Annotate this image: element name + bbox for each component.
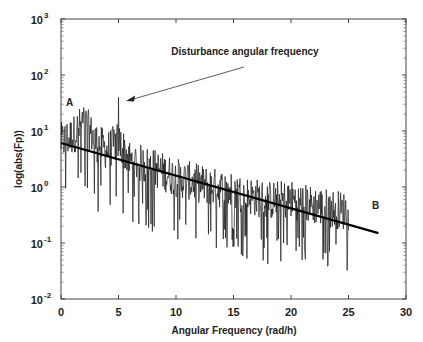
x-tick-label: 10 [170, 306, 182, 318]
x-tick-label: 0 [58, 306, 64, 318]
annotation-arrow-line [130, 67, 244, 100]
x-tick-label: 30 [400, 306, 412, 318]
y-tick-exponent: 1 [44, 123, 49, 132]
y-tick-exponent: 3 [44, 11, 49, 20]
y-tick-exponent: 0 [44, 179, 49, 188]
y-minor-ticks [61, 22, 406, 283]
disturbance-annotation: Disturbance angular frequency [171, 46, 319, 57]
y-tick-label: 10 [31, 238, 43, 250]
y-tick-label: 10 [31, 126, 43, 138]
y-tick-exponent: -1 [44, 235, 52, 244]
log-spectrum-chart: 051015202530 10-210-1100101102103 Distur… [0, 0, 423, 342]
y-tick-label: 10 [31, 294, 43, 306]
y-tick-label: 10 [31, 70, 43, 82]
y-tick-exponent: 2 [44, 67, 49, 76]
x-tick-label: 5 [115, 306, 121, 318]
y-tick-exponent: -2 [44, 291, 52, 300]
marker-b: B [372, 200, 379, 211]
y-tick-label: 10 [31, 14, 43, 26]
x-tick-label: 20 [285, 306, 297, 318]
y-axis-title: log(abs(Fp)) [13, 130, 24, 188]
marker-a: A [66, 97, 73, 108]
y-tick-label: 10 [31, 182, 43, 194]
fit-trend-line [61, 143, 378, 233]
annotation-arrowhead-icon [126, 96, 135, 102]
x-axis-title: Angular Frequency (rad/h) [171, 325, 296, 336]
plot-frame [61, 19, 406, 299]
x-axis-ticks: 051015202530 [58, 19, 412, 318]
x-tick-label: 15 [227, 306, 239, 318]
x-tick-label: 25 [342, 306, 354, 318]
